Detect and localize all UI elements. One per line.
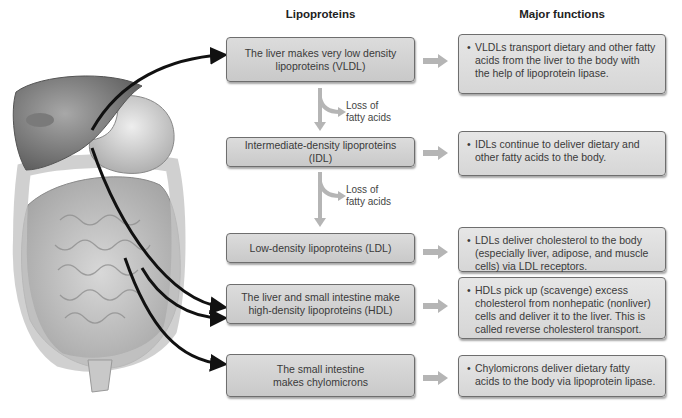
loss-label-1: Loss of fatty acids	[346, 100, 391, 124]
hdl-function-text: HDLs pick up (scavenge) excess cholester…	[475, 284, 651, 335]
liver-to-vldl-arrow	[92, 55, 222, 130]
hdl-label: The liver and small intestine make high-…	[233, 291, 408, 317]
vldl-function-box: •VLDLs transport dietary and other fatty…	[458, 34, 666, 94]
liver-to-hdl-arrow	[92, 148, 222, 307]
bullet-icon: •	[467, 138, 475, 151]
ldl-box: Low-density lipoproteins (LDL)	[226, 233, 415, 263]
bullet-icon: •	[467, 41, 475, 54]
loss-label-2: Loss of fatty acids	[346, 184, 391, 208]
chylomicrons-box: The small intestine makes chylomicrons	[226, 354, 415, 397]
idl-box: Intermediate-density lipoproteins (IDL)	[226, 137, 415, 167]
ldl-label: Low-density lipoproteins (LDL)	[250, 242, 392, 255]
hdl-function-box: •HDLs pick up (scavenge) excess choleste…	[458, 277, 666, 339]
lipoproteins-header: Lipoproteins	[226, 8, 415, 20]
bullet-icon: •	[467, 362, 475, 375]
gray-function-arrows	[423, 54, 448, 385]
chylomicrons-function-text: Chylomicrons deliver dietary fatty acids…	[475, 362, 655, 387]
major-functions-header: Major functions	[458, 8, 666, 20]
bullet-icon: •	[467, 234, 475, 247]
ldl-function-box: •LDLs deliver cholesterol to the body (e…	[458, 227, 666, 272]
hdl-box: The liver and small intestine make high-…	[226, 284, 415, 324]
vldl-box: The liver makes very low density lipopro…	[226, 37, 415, 82]
ldl-function-text: LDLs deliver cholesterol to the body (es…	[475, 234, 648, 272]
idl-function-box: •IDLs continue to deliver dietary and ot…	[458, 131, 666, 176]
idl-function-text: IDLs continue to deliver dietary and oth…	[475, 138, 640, 163]
chylomicrons-label: The small intestine makes chylomicrons	[267, 363, 374, 389]
idl-label: Intermediate-density lipoproteins (IDL)	[233, 139, 408, 165]
chylomicrons-function-box: •Chylomicrons deliver dietary fatty acid…	[458, 355, 666, 397]
intestine-to-hdl-arrow	[142, 268, 222, 318]
vldl-function-text: VLDLs transport dietary and other fatty …	[475, 41, 655, 79]
bullet-icon: •	[467, 284, 475, 297]
vldl-label: The liver makes very low density lipopro…	[233, 47, 408, 73]
intestine-to-chylomicrons-arrow	[125, 258, 222, 364]
